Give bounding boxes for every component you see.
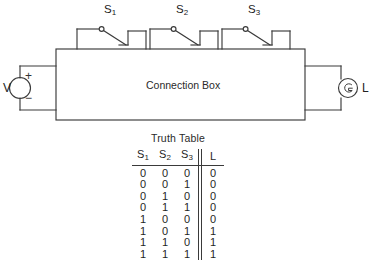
lamp-filament [345,84,352,92]
switch2-label: S2 [176,4,188,17]
switch3-label: S3 [248,4,260,17]
switch2-label-sub: 2 [184,8,188,17]
switch3-blade [248,31,271,46]
switch2-label-name: S [176,3,184,15]
table-row: 1000 [132,214,224,226]
switch1-label-sub: 1 [112,8,116,17]
cell-s3: 0 [176,165,199,179]
connection-box-label: Connection Box [146,80,220,91]
truth-table-section: Truth Table S1 S2 S3 L 00000010010001101… [130,132,226,260]
switch1-blade [104,31,127,46]
truth-table: S1 S2 S3 L 00000010010001101000101111011… [132,149,224,260]
table-row: 1101 [132,237,224,249]
column-header-s3: S3 [176,149,199,165]
column-header-s2: S2 [154,149,176,165]
cell-s3: 1 [176,249,199,261]
column-header-l: L [202,149,225,165]
table-row: 1111 [132,249,224,261]
switch3-label-sub: 3 [256,8,260,17]
lamp-symbol [339,79,358,98]
truth-table-body: 00000010010001101000101111011111 [132,165,224,260]
switch1-label: S1 [104,4,116,17]
source-minus-sign: − [25,92,32,104]
column-header-s1-sub: 1 [144,153,148,162]
source-plus-sign: + [25,70,32,82]
truth-table-title: Truth Table [130,132,226,144]
cell-s2: 1 [154,237,176,249]
switch2-blade [176,31,199,46]
column-header-l-name: L [210,150,216,162]
column-header-s1: S1 [132,149,154,165]
column-header-s3-sub: 3 [188,153,192,162]
cell-s2: 1 [154,249,176,261]
cell-l: 1 [202,237,225,249]
switch2-pivot [171,27,176,32]
cell-s3: 0 [176,214,199,226]
cell-s1: 0 [132,165,154,179]
cell-s2: 0 [154,214,176,226]
switch1-pivot [99,27,104,32]
switch3-pivot [243,27,248,32]
cell-l: 0 [202,165,225,179]
voltage-source-label: V [3,82,11,94]
cell-s1: 1 [132,249,154,261]
switch1-label-name: S [104,3,112,15]
lamp-label: L [362,82,369,94]
cell-s1: 1 [132,237,154,249]
cell-s3: 0 [176,237,199,249]
cell-l: 1 [202,249,225,261]
truth-table-head: S1 S2 S3 L [132,149,224,165]
cell-s2: 0 [154,165,176,179]
cell-l: 0 [202,214,225,226]
truth-table-header-row: S1 S2 S3 L [132,149,224,165]
table-row: 0000 [132,165,224,179]
cell-s1: 1 [132,214,154,226]
column-header-s2-sub: 2 [166,153,170,162]
switch3-label-name: S [248,3,256,15]
figure-root: Connection Box V + − L S1 S2 S3 Truth Ta… [0,0,373,273]
